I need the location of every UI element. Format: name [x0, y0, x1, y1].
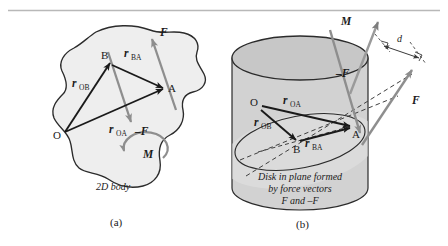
svg-text:OA: OA	[290, 100, 301, 109]
svg-text:OB: OB	[261, 122, 271, 131]
svg-text:r: r	[72, 77, 77, 89]
label-vector-M-b: M	[340, 15, 352, 27]
disk-caption-line-1: Disk in plane formed	[257, 171, 343, 182]
caption-panel-a: (a)	[110, 216, 123, 229]
label-two-d-body: 2D body	[96, 181, 131, 192]
label-point-O-a: O	[53, 129, 61, 141]
svg-text:r: r	[109, 123, 114, 135]
label-moment-M-a: M	[142, 148, 154, 160]
label-vector-F-b: F	[411, 94, 420, 106]
svg-text:r: r	[305, 137, 310, 149]
svg-text:BA: BA	[312, 143, 323, 152]
figure-container: O B A r OB r OA r BA F –F M 2D body (a)	[0, 0, 448, 246]
svg-text:r: r	[254, 116, 259, 128]
label-point-B-b: B	[293, 143, 300, 155]
label-vector-F-a: F	[159, 26, 168, 38]
label-point-A-a: A	[168, 82, 176, 94]
label-point-A-b: A	[352, 128, 360, 140]
label-vector-minus-F-a: –F	[134, 125, 149, 137]
mechanics-figure: O B A r OB r OA r BA F –F M 2D body (a)	[0, 0, 448, 246]
label-point-O-b: O	[250, 96, 258, 108]
disk-caption-line-2: by force vectors	[268, 183, 332, 194]
svg-text:r: r	[283, 94, 288, 106]
label-vector-minus-F-b: –F	[335, 67, 350, 79]
label-point-B-a: B	[101, 49, 108, 61]
svg-text:OB: OB	[79, 83, 89, 92]
caption-panel-b: (b)	[296, 218, 309, 231]
svg-text:r: r	[124, 47, 129, 59]
disk-caption-line-3: F and –F	[280, 195, 319, 206]
svg-text:OA: OA	[116, 129, 127, 138]
svg-text:BA: BA	[131, 53, 142, 62]
